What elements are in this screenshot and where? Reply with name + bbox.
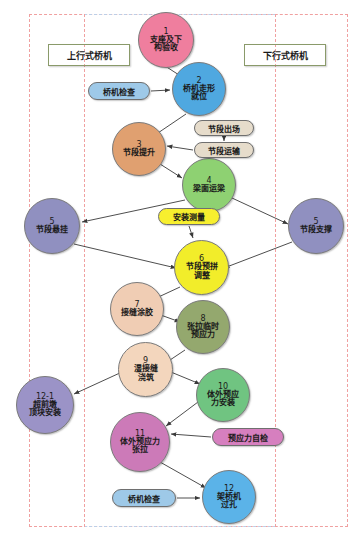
pill-p-crane-check-bot[interactable]: 桥机检查 — [112, 489, 176, 507]
node-n2[interactable]: 2桥机走形 就位 — [172, 62, 226, 116]
pill-p-install-survey[interactable]: 安装测量 — [158, 208, 220, 225]
lane-title-down: 下行式桥机 — [244, 44, 326, 66]
edge-n3-to-n4 — [160, 164, 182, 178]
lane-title-up: 上行式桥机 — [48, 44, 130, 66]
edge-n9-to-n121 — [74, 372, 122, 394]
pill-p-ps-selfcheck[interactable]: 预应力自检 — [212, 428, 284, 446]
node-label: 节段预拼 调整 — [186, 263, 218, 279]
node-label: 桥机走形 就位 — [183, 85, 215, 101]
node-n121[interactable]: 12-1超前墩 顶块安装 — [16, 376, 74, 434]
lane-up-label: 上行式桥机 — [67, 49, 112, 62]
node-n1[interactable]: 1支座及下 构验收 — [138, 12, 194, 68]
node-n8[interactable]: 8张拉临时 预应力 — [176, 300, 230, 354]
node-n10[interactable]: 10体外预应 力安装 — [196, 368, 250, 422]
edge-p-seg-transport-to-n3 — [167, 146, 193, 150]
edge-p-install-survey-to-n6 — [189, 226, 193, 238]
node-label: 支座及下 构验收 — [150, 36, 182, 52]
node-n4[interactable]: 4梁面运梁 — [182, 158, 236, 212]
lane-down-label: 下行式桥机 — [263, 49, 308, 62]
node-n3[interactable]: 3节段提升 — [112, 122, 166, 176]
node-label: 体外预应力 张拉 — [120, 438, 160, 454]
edge-p-ps-selfcheck-to-n11 — [171, 434, 211, 437]
node-label: 节段支撑 — [300, 226, 332, 234]
node-n11[interactable]: 11体外预应力 张拉 — [110, 412, 170, 472]
pill-label: 安装测量 — [173, 211, 205, 222]
node-n7[interactable]: 7接缝涂胶 — [110, 282, 164, 336]
node-label: 节段悬挂 — [36, 226, 68, 234]
node-n5r[interactable]: 5节段支撑 — [288, 198, 344, 254]
edge-n5r-to-n6 — [224, 242, 292, 268]
pill-label: 桥机检查 — [103, 86, 135, 97]
node-label: 湿接缝 浇筑 — [134, 365, 158, 381]
node-n6[interactable]: 6节段预拼 调整 — [174, 240, 229, 295]
node-label: 节段提升 — [123, 149, 155, 157]
node-n5l[interactable]: 5节段悬挂 — [24, 198, 80, 254]
node-n12[interactable]: 12架桥机 过孔 — [202, 470, 256, 524]
node-n9[interactable]: 9湿接缝 浇筑 — [118, 342, 173, 397]
edge-n5l-to-n6 — [74, 244, 176, 268]
edge-n11-to-n12 — [160, 462, 206, 488]
flowchart-canvas: 上行式桥机 下行式桥机 1支座及下 构验收2桥机走形 就位3节段提升4梁面运梁5… — [0, 0, 362, 544]
pill-p-seg-out[interactable]: 节段出场 — [194, 120, 254, 136]
pill-p-seg-transport[interactable]: 节段运输 — [194, 142, 254, 158]
pill-label: 桥机检查 — [128, 493, 160, 504]
node-label: 接缝涂胶 — [121, 309, 153, 317]
pill-p-crane-check-top[interactable]: 桥机检查 — [88, 82, 150, 100]
node-label: 超前墩 顶块安装 — [29, 401, 61, 417]
node-label: 梁面运梁 — [193, 185, 225, 193]
pill-label: 节段运输 — [208, 145, 240, 156]
edge-n10-to-n11 — [166, 402, 198, 426]
edge-n4-to-n5r — [232, 198, 288, 224]
node-label: 体外预应 力安装 — [207, 391, 239, 407]
node-label: 架桥机 过孔 — [217, 493, 241, 509]
pill-label: 预应力自检 — [228, 432, 268, 443]
pill-label: 节段出场 — [208, 123, 240, 134]
edge-p-crane-check-top-to-n2 — [151, 90, 170, 91]
node-label: 张拉临时 预应力 — [187, 323, 219, 339]
